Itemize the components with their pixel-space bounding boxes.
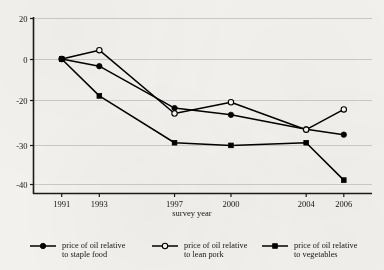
data-point-marker-square [172,140,177,145]
data-point-marker-filled-circle [228,112,233,117]
data-point-marker-open-circle [228,100,233,105]
legend-label-line1: price of oil relative [62,241,126,250]
data-point-marker-filled-circle [341,132,346,137]
y-axis-tick-label: -20 [16,96,27,106]
data-point-marker-square [97,94,102,99]
y-axis-tick-label: 0 [23,55,27,65]
y-axis-ticks: 200-20-30-40 [16,14,33,190]
data-point-marker-open-circle [97,47,102,52]
y-axis-tick-label: 20 [19,14,28,24]
legend-label-line2: to lean pork [184,250,224,259]
data-point-marker-square [304,140,309,145]
data-point-marker-filled-circle [40,243,45,248]
data-point-marker-open-circle [172,111,177,116]
x-axis-tick-label: 2006 [335,199,352,209]
data-point-marker-open-circle [303,127,308,132]
chart-canvas: 200-20-30-40 199119931997200020042006 su… [0,0,384,270]
x-axis-title: survey year [172,208,212,218]
legend-label-line2: to staple food [62,250,108,259]
x-axis-tick-label: 2000 [222,199,239,209]
chart-legend: price of oil relativeto staple foodprice… [30,241,358,259]
legend-label-line2: to vegetables [294,250,338,259]
legend-item[interactable]: price of oil relativeto vegetables [262,241,358,259]
legend-item[interactable]: price of oil relativeto lean pork [152,241,248,259]
data-point-marker-square [59,57,64,62]
series-line [62,59,344,180]
series-line [62,50,344,130]
legend-label-line1: price of oil relative [294,241,358,250]
x-axis-tick-label: 1993 [91,199,108,209]
axes [33,17,372,194]
data-point-marker-square [273,244,278,249]
data-point-marker-open-circle [341,107,346,112]
data-point-marker-filled-circle [172,105,177,110]
series-layer [59,47,346,182]
data-point-marker-square [341,178,346,183]
x-axis-ticks: 199119931997200020042006 [53,194,352,209]
chart-series [59,47,346,132]
chart-series [59,57,346,183]
legend-item[interactable]: price of oil relativeto staple food [30,241,126,259]
y-axis-tick-label: -40 [16,180,27,190]
data-point-marker-open-circle [162,243,167,248]
y-axis-tick-label: -30 [16,141,27,151]
series-line [62,59,344,135]
legend-label-line1: price of oil relative [184,241,248,250]
x-axis-tick-label: 1997 [166,199,183,209]
line-chart: 200-20-30-40 199119931997200020042006 su… [0,0,384,270]
x-axis-tick-label: 2004 [298,199,316,209]
gridlines [34,19,373,185]
data-point-marker-square [229,143,234,148]
data-point-marker-filled-circle [97,63,102,68]
x-axis-tick-label: 1991 [53,199,70,209]
